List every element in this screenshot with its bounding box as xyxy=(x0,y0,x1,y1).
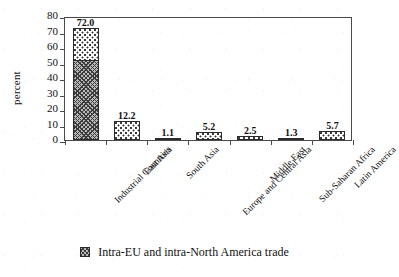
bar-segment-other-trade xyxy=(197,133,221,139)
y-tick-label: 60 xyxy=(47,41,58,52)
bar-value-label: 1.3 xyxy=(285,128,298,138)
y-tick-mark xyxy=(60,80,65,81)
y-tick-label: 50 xyxy=(47,57,58,68)
bar-segment-other-trade xyxy=(320,132,344,139)
y-tick-mark xyxy=(60,111,65,112)
y-tick-label: 0 xyxy=(53,134,59,145)
bar-value-label: 5.2 xyxy=(203,122,216,132)
x-tick-mark xyxy=(353,140,354,145)
bar-segment-other-trade xyxy=(238,137,262,139)
bar[interactable]: 5.7 xyxy=(319,131,345,140)
bar[interactable]: 2.5 xyxy=(237,136,263,140)
bar-slot: 2.5 xyxy=(237,136,263,140)
x-category-label: East Asia xyxy=(142,145,174,177)
y-tick-label: 30 xyxy=(47,88,58,99)
y-tick-label: 10 xyxy=(47,119,58,130)
y-tick-mark xyxy=(60,65,65,66)
bar-segment-other-trade xyxy=(115,122,139,139)
y-tick-mark xyxy=(60,49,65,50)
x-axis-category-labels: Industrial CountriesEast AsiaSouth AsiaE… xyxy=(64,145,352,215)
bar-value-label: 1.1 xyxy=(162,128,175,138)
legend-label: Intra-EU and intra-North America trade xyxy=(98,246,289,258)
bar-value-label: 5.7 xyxy=(326,121,339,131)
plot-area: 01020304050607080 72.012.21.15.22.51.35.… xyxy=(64,17,352,141)
legend-swatch-intra-eu-north-america xyxy=(80,247,90,257)
y-tick-label: 20 xyxy=(47,103,58,114)
bar[interactable]: 12.2 xyxy=(114,121,140,140)
y-tick-label: 70 xyxy=(47,26,58,37)
y-tick-label: 40 xyxy=(47,72,58,83)
bar-segment-other-trade xyxy=(74,29,98,59)
x-category-label: South Asia xyxy=(185,145,221,181)
bar-value-label: 72.0 xyxy=(77,18,95,28)
x-category-label: Middle East xyxy=(269,145,308,184)
bar-slot: 72.0 xyxy=(73,28,99,140)
bar-value-label: 2.5 xyxy=(244,126,257,136)
y-tick-mark xyxy=(60,127,65,128)
bar[interactable]: 72.0 xyxy=(73,28,99,140)
y-tick-mark xyxy=(60,96,65,97)
y-tick-mark xyxy=(60,34,65,35)
bar-slot: 5.7 xyxy=(319,131,345,140)
bar-value-label: 12.2 xyxy=(118,111,136,121)
bar-slot: 12.2 xyxy=(114,121,140,140)
bar[interactable]: 5.2 xyxy=(196,132,222,140)
bar-slot: 1.3 xyxy=(278,138,304,140)
bar-slot: 1.1 xyxy=(155,138,181,140)
legend: Intra-EU and intra-North America trade xyxy=(0,246,369,258)
y-tick-mark xyxy=(60,18,65,19)
bar[interactable]: 1.1 xyxy=(155,138,181,140)
y-tick-label: 80 xyxy=(47,10,58,21)
bar-slot: 5.2 xyxy=(196,132,222,140)
bar[interactable]: 1.3 xyxy=(278,138,304,140)
y-axis-title: percent xyxy=(10,52,22,124)
bar-segment-intra-eu-north-america xyxy=(74,60,98,139)
